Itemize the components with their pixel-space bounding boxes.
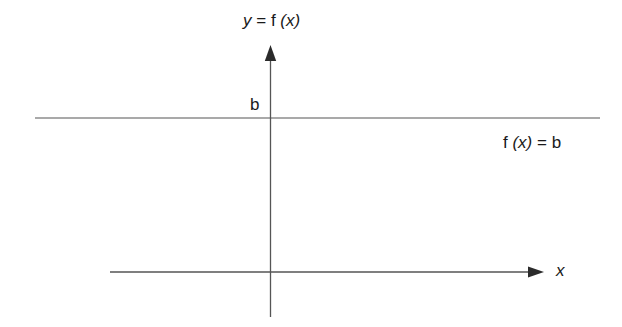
constant-function-graph-figure: y = f (x) b f (x) = b x xyxy=(0,0,622,327)
constant-function-label-argument: (x) xyxy=(508,133,533,152)
x-axis-arrowhead xyxy=(528,267,544,278)
graph-canvas xyxy=(0,0,622,327)
y-axis-arrowhead xyxy=(265,45,276,61)
constant-function-label-value: b xyxy=(552,133,561,152)
y-axis-label: y = f (x) xyxy=(243,12,300,29)
y-axis-label-variable: y xyxy=(243,11,252,30)
x-axis-label: x xyxy=(556,262,565,279)
y-axis-label-argument: (x) xyxy=(276,11,301,30)
constant-function-label-equals: = xyxy=(532,133,551,152)
constant-function-label: f (x) = b xyxy=(503,134,561,151)
y-axis-label-equals: = xyxy=(252,11,271,30)
y-intercept-label: b xyxy=(250,96,259,113)
